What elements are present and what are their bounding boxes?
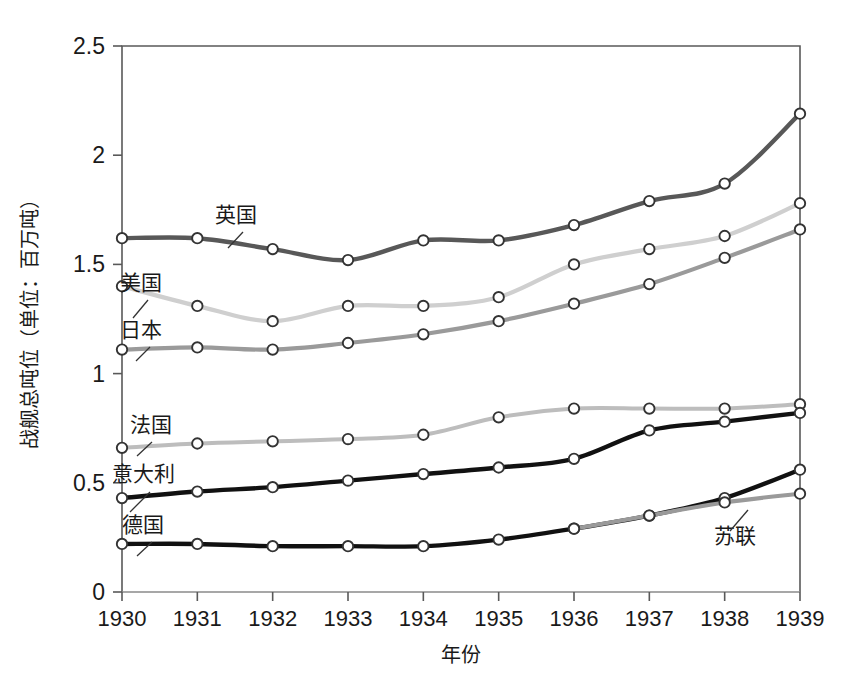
- data-point: [493, 462, 503, 472]
- data-point: [493, 316, 503, 326]
- y-tick-label: 0.5: [73, 470, 105, 496]
- data-point: [493, 534, 503, 544]
- x-tick-label: 1931: [173, 606, 222, 631]
- data-point: [418, 430, 428, 440]
- series-label-日本: 日本: [120, 318, 162, 342]
- series-label-德国: 德国: [122, 513, 164, 537]
- data-point: [719, 231, 729, 241]
- data-point: [192, 438, 202, 448]
- data-point: [117, 493, 127, 503]
- data-point: [569, 299, 579, 309]
- data-point: [644, 196, 654, 206]
- data-point: [493, 412, 503, 422]
- y-tick-label: 1.5: [73, 251, 105, 277]
- data-point: [343, 475, 353, 485]
- y-axis-title: 战舰总吨位（单位：百万吨）: [18, 189, 42, 449]
- data-point: [719, 253, 729, 263]
- data-point: [192, 233, 202, 243]
- x-tick-label: 1936: [550, 606, 599, 631]
- data-point: [343, 301, 353, 311]
- data-point: [267, 436, 277, 446]
- x-tick-label: 1933: [324, 606, 373, 631]
- data-point: [644, 244, 654, 254]
- data-point: [192, 342, 202, 352]
- x-tick-label: 1932: [248, 606, 297, 631]
- y-tick-label: 2.5: [73, 33, 105, 59]
- y-tick-label: 2: [92, 142, 105, 168]
- data-point: [117, 539, 127, 549]
- data-point: [569, 403, 579, 413]
- x-tick-label: 1939: [776, 606, 825, 631]
- data-point: [795, 224, 805, 234]
- data-point: [192, 486, 202, 496]
- data-point: [267, 482, 277, 492]
- data-point: [343, 541, 353, 551]
- y-tick-label: 1: [92, 361, 105, 387]
- data-point: [795, 408, 805, 418]
- data-point: [795, 465, 805, 475]
- data-point: [644, 425, 654, 435]
- x-tick-label: 1930: [98, 606, 147, 631]
- data-point: [192, 539, 202, 549]
- series-label-英国: 英国: [215, 203, 257, 227]
- data-point: [117, 344, 127, 354]
- data-point: [569, 259, 579, 269]
- chart-canvas: 00.511.522.5 193019311932193319341935193…: [0, 0, 851, 680]
- data-point: [569, 220, 579, 230]
- x-tick-label: 1934: [399, 606, 448, 631]
- data-point: [644, 279, 654, 289]
- data-point: [192, 301, 202, 311]
- data-point: [795, 109, 805, 119]
- data-point: [719, 403, 729, 413]
- series-label-意大利: 意大利: [112, 462, 175, 486]
- y-tick-label: 0: [92, 579, 105, 605]
- x-tick-label: 1938: [700, 606, 749, 631]
- data-point: [569, 523, 579, 533]
- data-point: [719, 497, 729, 507]
- data-point: [719, 178, 729, 188]
- data-point: [493, 292, 503, 302]
- data-point: [343, 434, 353, 444]
- data-point: [569, 454, 579, 464]
- x-tick-label: 1937: [625, 606, 674, 631]
- series-label-苏联: 苏联: [714, 524, 756, 548]
- data-point: [719, 416, 729, 426]
- series-label-法国: 法国: [130, 413, 172, 437]
- battleship-tonnage-line-chart: 00.511.522.5 193019311932193319341935193…: [0, 0, 851, 680]
- data-point: [418, 235, 428, 245]
- data-point: [644, 403, 654, 413]
- data-point: [418, 329, 428, 339]
- data-point: [267, 244, 277, 254]
- series-label-美国: 美国: [120, 271, 162, 295]
- data-point: [418, 469, 428, 479]
- x-tick-label: 1935: [474, 606, 523, 631]
- data-point: [795, 198, 805, 208]
- data-point: [267, 316, 277, 326]
- data-point: [418, 301, 428, 311]
- data-point: [795, 489, 805, 499]
- data-point: [493, 235, 503, 245]
- data-point: [117, 443, 127, 453]
- data-point: [117, 233, 127, 243]
- x-axis-title: 年份: [441, 643, 481, 667]
- data-point: [267, 541, 277, 551]
- data-point: [267, 344, 277, 354]
- data-point: [343, 338, 353, 348]
- data-point: [343, 255, 353, 265]
- data-point: [644, 510, 654, 520]
- data-point: [418, 541, 428, 551]
